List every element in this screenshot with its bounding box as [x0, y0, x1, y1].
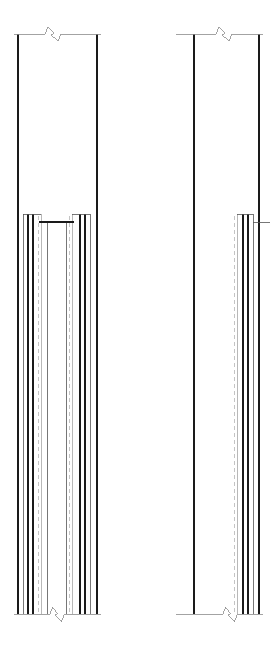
right-view-top-break-zigzag-icon	[216, 27, 232, 41]
left-view-top-break-zigzag-icon	[45, 27, 61, 41]
drawing-canvas	[0, 0, 277, 649]
left-view-bottom-break-zigzag-icon	[50, 607, 65, 622]
cad-drawing-svg	[0, 0, 277, 649]
right-elevation-detail	[176, 27, 270, 622]
left-elevation-detail	[14, 27, 101, 622]
right-view-bottom-break-zigzag-icon	[223, 607, 238, 622]
